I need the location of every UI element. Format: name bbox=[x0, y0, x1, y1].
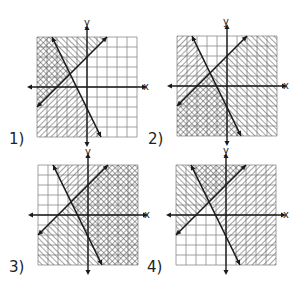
graph-4-svg bbox=[166, 148, 296, 276]
graph-1-svg bbox=[27, 20, 157, 148]
graph-4-label: 4) bbox=[147, 258, 162, 276]
graph-3-svg bbox=[28, 148, 158, 276]
graph-1-y-label: y bbox=[84, 17, 90, 28]
graph-4 bbox=[166, 148, 296, 280]
graph-1-label: 1) bbox=[9, 130, 24, 148]
graph-3-label: 3) bbox=[9, 258, 24, 276]
graph-3 bbox=[28, 148, 158, 280]
graph-2-svg bbox=[167, 19, 297, 147]
graph-3-x-label: x bbox=[144, 209, 150, 220]
graph-2-y-label: y bbox=[223, 16, 229, 27]
graph-4-y-label: y bbox=[223, 145, 229, 156]
graph-1-x-label: x bbox=[143, 81, 149, 92]
graph-2-x-label: x bbox=[283, 80, 289, 91]
graph-2 bbox=[167, 19, 297, 151]
graph-2-label: 2) bbox=[148, 130, 163, 148]
graph-1 bbox=[27, 20, 157, 152]
graph-3-y-label: y bbox=[85, 146, 91, 157]
graph-4-x-label: x bbox=[283, 209, 289, 220]
